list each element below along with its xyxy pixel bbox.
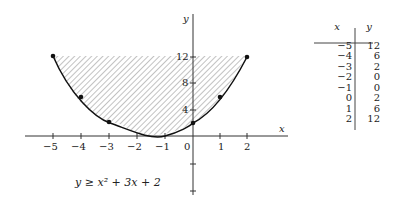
x-tick: −4	[71, 141, 86, 152]
y-tick: 4	[182, 104, 188, 115]
x-tick: −2	[127, 141, 142, 152]
x-tick: 1	[218, 141, 224, 152]
table-row: 02	[316, 93, 380, 104]
y-axis-label: y	[183, 13, 189, 24]
x-tick: 0	[184, 141, 190, 152]
col-x: x	[316, 22, 358, 33]
values-table: xy −512 −46 −32 −20 −10 02 16 212	[316, 22, 380, 125]
table-row: −20	[316, 72, 380, 83]
x-tick: −5	[43, 141, 58, 152]
x-tick: −3	[99, 141, 114, 152]
col-y: y	[358, 22, 380, 33]
y-tick: 8	[182, 77, 188, 88]
y-tick: 12	[176, 51, 189, 62]
table-row: 212	[316, 114, 380, 125]
x-axis-label: x	[279, 123, 285, 134]
x-tick: −1	[155, 141, 170, 152]
inequality-label: y ≥ x² + 3x + 2	[75, 176, 161, 189]
x-tick: 2	[244, 141, 250, 152]
table-row: −46	[316, 51, 380, 62]
